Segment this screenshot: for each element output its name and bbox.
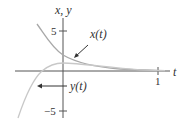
y-axis-label: x, y (55, 4, 72, 16)
curve-label-y-t: y(t) (70, 80, 87, 92)
plot-area (0, 0, 191, 122)
tick-label-5: 5 (51, 26, 57, 37)
tick-label-1: 1 (155, 76, 161, 87)
curve-label-x-t: x(t) (90, 28, 107, 40)
arrowhead-y-t (37, 84, 42, 89)
tick-label-neg5: −5 (44, 106, 56, 117)
arrow-x-t (76, 45, 88, 56)
t-axis-label: t (173, 66, 176, 78)
